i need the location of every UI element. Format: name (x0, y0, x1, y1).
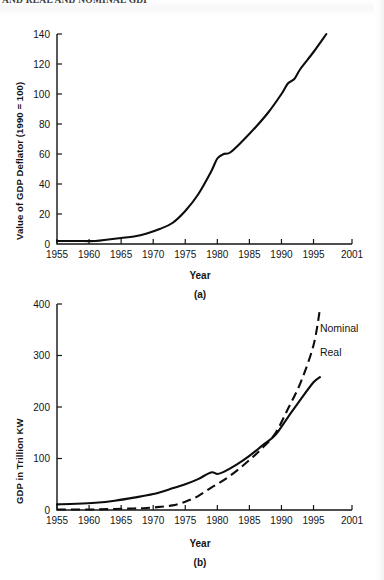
y-tick-label: 200 (33, 402, 50, 413)
chart-b-svg: 0100200300400195519601965197019751980198… (0, 292, 384, 538)
y-tick-label: 140 (33, 29, 50, 40)
y-tick-label: 100 (33, 453, 50, 464)
x-tick-label: 1970 (142, 249, 165, 260)
running-head-fade (0, 6, 384, 22)
figure-a: 0204060801001201401955196019651970197519… (0, 22, 384, 290)
x-tick-label: 1995 (302, 249, 325, 260)
figure-b: 0100200300400195519601965197019751980198… (0, 292, 384, 580)
y-tick-label: 0 (44, 239, 50, 250)
y-tick-label: 0 (44, 505, 50, 516)
x-tick-label: 2001 (341, 515, 364, 526)
chart-a-y-axis-title: Value of GDP Deflator (1990 = 100) (14, 82, 25, 240)
chart-a-plot: 0204060801001201401955196019651970197519… (0, 22, 384, 270)
y-tick-label: 40 (39, 179, 51, 190)
x-tick-label: 1975 (174, 249, 197, 260)
x-tick-label: 2001 (341, 249, 364, 260)
x-tick-label: 1970 (142, 515, 165, 526)
x-tick-label: 1960 (78, 515, 101, 526)
x-tick-label: 1980 (206, 249, 229, 260)
x-tick-label: 1985 (238, 515, 261, 526)
series-line-nominal (57, 309, 320, 509)
series-line-real (57, 377, 320, 504)
chart-b-panel-caption: (b) (8, 557, 384, 568)
chart-axis-lines (57, 304, 352, 510)
x-tick-label: 1990 (270, 249, 293, 260)
x-tick-label: 1955 (46, 515, 69, 526)
x-tick-label: 1980 (206, 515, 229, 526)
series-line-gdp deflator (57, 34, 326, 241)
series-label-nominal: Nominal (320, 322, 359, 334)
chart-a-svg: 0204060801001201401955196019651970197519… (0, 22, 384, 270)
y-tick-label: 80 (39, 119, 51, 130)
running-head: AND REAL AND NOMINAL GDP (0, 0, 384, 22)
y-tick-label: 60 (39, 149, 51, 160)
y-tick-label: 20 (39, 209, 51, 220)
series-label-real: Real (320, 346, 342, 358)
y-tick-label: 300 (33, 350, 50, 361)
running-head-text: AND REAL AND NOMINAL GDP (2, 0, 149, 5)
y-tick-label: 100 (33, 89, 50, 100)
x-tick-label: 1990 (270, 515, 293, 526)
x-tick-label: 1965 (110, 249, 133, 260)
chart-a-x-axis-title: Year (8, 270, 384, 281)
x-tick-label: 1960 (78, 249, 101, 260)
y-tick-label: 120 (33, 59, 50, 70)
chart-b-x-axis-title: Year (8, 538, 384, 549)
x-tick-label: 1965 (110, 515, 133, 526)
chart-b-plot: 0100200300400195519601965197019751980198… (0, 292, 384, 538)
x-tick-label: 1985 (238, 249, 261, 260)
x-tick-label: 1955 (46, 249, 69, 260)
chart-axis-lines (57, 34, 352, 244)
x-tick-label: 1975 (174, 515, 197, 526)
x-tick-label: 1995 (302, 515, 325, 526)
chart-b-y-axis-title: GDP in Trillion KW (14, 418, 25, 504)
y-tick-label: 400 (33, 299, 50, 310)
